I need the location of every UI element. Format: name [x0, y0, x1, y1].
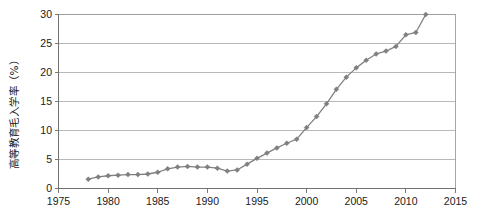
data-point-marker	[185, 164, 190, 169]
y-tick-label: 5	[46, 153, 52, 165]
data-point-marker	[215, 166, 220, 171]
y-tick-label: 20	[40, 66, 52, 78]
data-point-marker	[96, 174, 101, 179]
x-tick-label: 1995	[245, 195, 269, 207]
x-tick-label: 2005	[345, 195, 369, 207]
data-point-marker	[284, 141, 289, 146]
data-point-marker	[86, 177, 91, 182]
data-point-marker	[384, 49, 389, 54]
x-tick-label: 2015	[444, 195, 468, 207]
data-point-marker	[264, 151, 269, 156]
series-line	[88, 15, 425, 180]
data-point-marker	[145, 172, 150, 177]
x-tick-label: 2000	[295, 195, 319, 207]
data-point-marker	[274, 145, 279, 150]
data-point-marker	[135, 172, 140, 177]
data-point-marker	[225, 169, 230, 174]
data-point-marker	[165, 166, 170, 171]
data-point-marker	[175, 165, 180, 170]
data-point-marker	[423, 12, 428, 17]
x-tick-label: 1975	[47, 195, 71, 207]
y-tick-label: 15	[40, 95, 52, 107]
data-point-marker	[125, 172, 130, 177]
y-tick-label: 10	[40, 124, 52, 136]
x-tick-label: 2010	[394, 195, 418, 207]
data-point-marker	[116, 173, 121, 178]
x-tick-label: 1980	[96, 195, 120, 207]
y-tick-label: 0	[46, 182, 52, 194]
chart-figure: 高等教育毛入学率（%） 0510152025301975198019851990…	[0, 0, 487, 224]
data-point-marker	[155, 170, 160, 175]
y-tick-label: 25	[40, 37, 52, 49]
data-point-marker	[195, 165, 200, 170]
chart-plot: 0510152025301975198019851990199520002005…	[0, 0, 487, 224]
data-point-marker	[413, 30, 418, 35]
x-tick-label: 1985	[146, 195, 170, 207]
y-tick-label: 30	[40, 8, 52, 20]
data-point-marker	[106, 173, 111, 178]
data-point-marker	[205, 165, 210, 170]
x-tick-label: 1990	[196, 195, 220, 207]
